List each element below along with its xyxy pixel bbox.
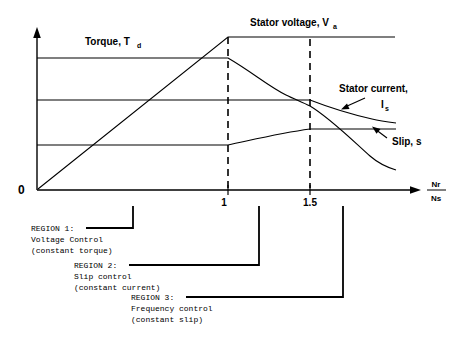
curve-torque: [37, 58, 396, 170]
x-tick-label-1: 1: [221, 197, 227, 208]
region-3-title: REGION 3:: [131, 293, 174, 302]
region-1-title: REGION 1:: [31, 224, 74, 233]
label-slip-text: Slip, s: [392, 136, 422, 147]
bracket-region-1: [86, 206, 133, 228]
label-slip: Slip, s: [372, 127, 422, 148]
x-axis-numerator: Nr: [432, 180, 441, 189]
label-stator-voltage: Stator voltage, V a: [250, 17, 337, 30]
dashed-guides-group: [228, 37, 310, 188]
label-stator-current-text: Stator current,: [339, 83, 408, 94]
region-1-line2: Voltage Control: [31, 235, 103, 244]
bracket-region-3: [186, 206, 343, 297]
leader-line-stator-current: [345, 98, 365, 107]
label-stator-current: Stator current, I s: [339, 83, 408, 112]
region-3-line2: Frequency control: [131, 304, 213, 313]
origin-label: 0: [18, 183, 25, 197]
region-2-line3: (constant current): [74, 283, 160, 292]
label-stator-current-subscript: s: [385, 105, 389, 112]
region-1-line3: (constant torque): [31, 246, 113, 255]
label-torque-text: Torque, T: [85, 36, 130, 47]
motor-control-regions-diagram: 0 1 1.5 Nr Ns Torque, T d Stator voltage…: [0, 0, 466, 340]
curve-stator-voltage: [38, 37, 395, 189]
label-stator-current-symbol: I: [381, 99, 384, 110]
axes-group: [33, 27, 421, 195]
x-axis-denominator: Ns: [431, 194, 442, 203]
y-axis-arrowhead: [33, 27, 41, 38]
x-axis-arrowhead: [410, 186, 421, 194]
region-2-line2: Slip control: [74, 272, 132, 281]
region-2-title: REGION 2:: [74, 261, 117, 270]
label-torque: Torque, T d: [85, 36, 141, 49]
bracket-region-2: [129, 206, 259, 265]
region-3-line3: (constant slip): [131, 315, 203, 324]
x-axis-fraction-label: Nr Ns: [427, 180, 446, 203]
curve-stator-current: [37, 100, 396, 123]
label-stator-voltage-subscript: a: [333, 23, 337, 30]
leader-arrowhead-stator-current: [341, 104, 350, 110]
label-torque-subscript: d: [137, 42, 141, 49]
label-stator-voltage-text: Stator voltage, V: [250, 17, 329, 28]
x-tick-label-1-5: 1.5: [303, 197, 317, 208]
